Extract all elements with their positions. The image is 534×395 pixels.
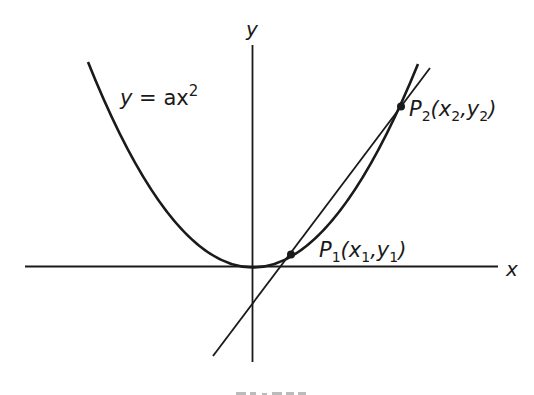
p2-label: P2(x2,y2) [409,97,496,124]
secant-line [213,68,430,356]
y-axis-label: y [245,17,259,41]
point-p1 [287,251,295,259]
curve-label: y = ax2 [119,82,198,110]
point-p2 [397,103,405,111]
p1-label: P1(x1,y1) [319,238,406,265]
x-axis-label: x [505,257,518,281]
parabola-secant-diagram: y = ax2 y x P2(x2,y2) P1(x1,y1) [0,0,534,395]
